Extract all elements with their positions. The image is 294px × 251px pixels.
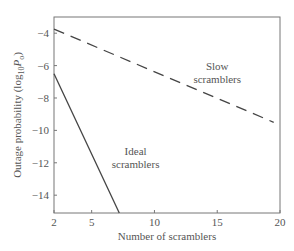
- plot-frame: [54, 17, 280, 213]
- y-tick-label: −10: [32, 124, 50, 136]
- series-line-ideal-scramblers: [54, 74, 119, 213]
- chart: −4−6−8−10−12−14 25101520 SlowscramblersI…: [0, 0, 294, 251]
- y-axis-ticks: −4−6−8−10−12−14: [32, 27, 57, 201]
- y-tick-label: −8: [37, 92, 49, 104]
- annotation-label: Slow: [206, 60, 229, 72]
- y-tick-label: −4: [37, 27, 49, 39]
- annotation-label: scramblers: [193, 73, 241, 85]
- annotation-label: Ideal: [125, 145, 147, 157]
- x-tick-label: 20: [275, 216, 287, 228]
- x-tick-label: 5: [89, 216, 95, 228]
- y-tick-label: −14: [32, 189, 50, 201]
- x-tick-label: 15: [212, 216, 224, 228]
- y-tick-label: −12: [32, 157, 49, 169]
- annotations: SlowscramblersIdealscramblers: [112, 60, 241, 169]
- annotation-label: scramblers: [112, 158, 160, 170]
- x-axis-label: Number of scramblers: [118, 230, 216, 242]
- y-axis-label: Outage probability (log10Po): [11, 52, 26, 178]
- x-tick-label: 2: [51, 216, 57, 228]
- series-group: [54, 29, 274, 213]
- y-tick-label: −6: [37, 60, 49, 72]
- x-tick-label: 10: [149, 216, 161, 228]
